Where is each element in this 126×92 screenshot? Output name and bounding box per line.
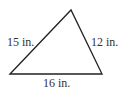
side-label-bottom: 16 in. [43,76,70,90]
side-label-right: 12 in. [91,35,118,49]
triangle-diagram: 15 in. 12 in. 16 in. [0,0,126,92]
side-label-left: 15 in. [7,35,34,49]
